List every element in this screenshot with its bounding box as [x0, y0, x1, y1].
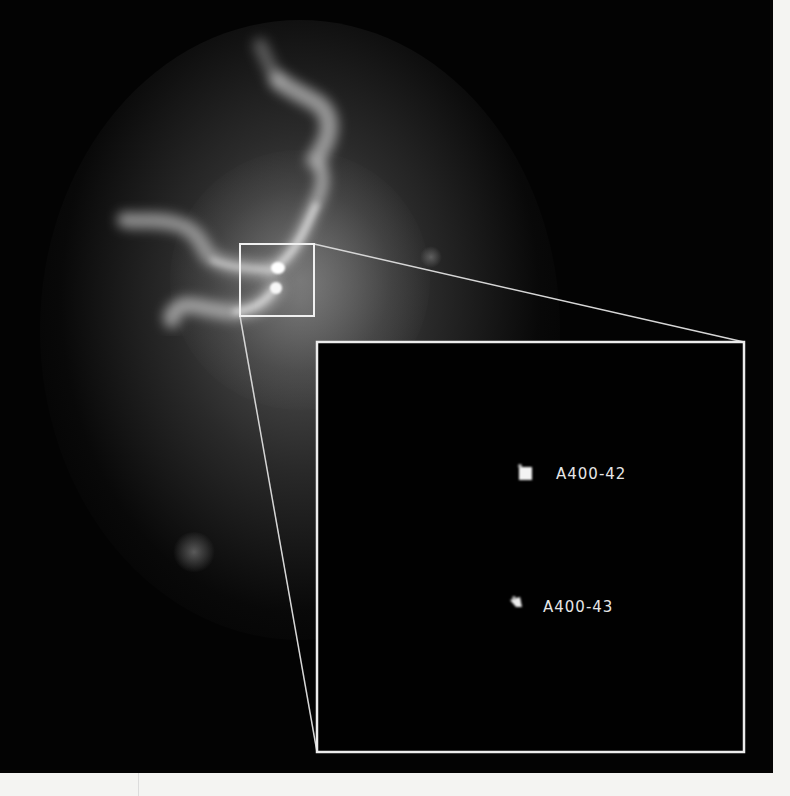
jets-overlay — [0, 0, 773, 773]
astronomy-image: A400-42 A400-43 — [0, 0, 773, 773]
label-A400-43: A400-43 — [543, 598, 613, 616]
core-2 — [270, 282, 282, 294]
upper-jet — [260, 45, 329, 270]
source-A400-42 — [519, 467, 532, 480]
core-1 — [271, 262, 285, 274]
inset-panel — [317, 342, 744, 752]
page-fold-line — [138, 773, 139, 796]
label-A400-42: A400-42 — [556, 465, 626, 483]
